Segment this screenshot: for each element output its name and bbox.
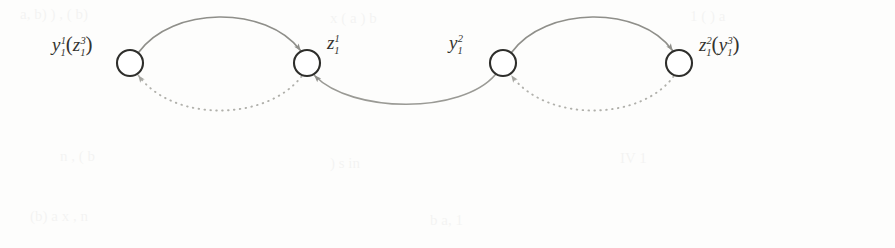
diagram-canvas [0, 0, 895, 248]
node-1-label: y11(z31) [52, 32, 93, 58]
node-2-label: z11 [327, 32, 340, 56]
node-1-circle[interactable] [117, 50, 143, 76]
node-1-paren-close: ) [85, 32, 92, 56]
node-3-label: y21 [449, 32, 463, 56]
node-2-label-sub: 1 [334, 45, 339, 56]
node-3-label-sup: 2 [458, 33, 463, 44]
automaton-diagram: a, b) ) , ( b) x ( a ) b 1 ( ) a n , ( b… [0, 0, 895, 248]
node-4-circle[interactable] [666, 50, 692, 76]
node-4-paren-close: ) [732, 32, 739, 56]
node-2-circle[interactable] [294, 50, 320, 76]
edge-top-left [139, 17, 301, 53]
node-3-circle[interactable] [490, 50, 516, 76]
node-4-label: z21(y31) [699, 32, 740, 58]
edge-top-right [512, 17, 673, 53]
edge-bottom-left [139, 76, 302, 111]
node-1-paren-open: ( [66, 32, 73, 56]
node-3-label-sub: 1 [457, 45, 462, 56]
node-2-label-sup: 1 [335, 33, 340, 44]
edge-middle [315, 75, 496, 105]
node-4-paren-open: ( [712, 32, 719, 56]
edge-bottom-right [512, 76, 674, 111]
